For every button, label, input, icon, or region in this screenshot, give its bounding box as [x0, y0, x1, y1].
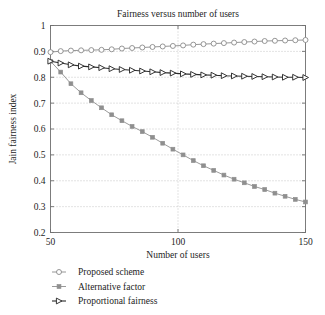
- series-marker-1: [171, 147, 175, 151]
- series-marker-1: [69, 82, 73, 86]
- series-marker-2: [242, 73, 248, 79]
- series-marker-2: [283, 74, 289, 80]
- series-marker-0: [89, 48, 94, 53]
- series-marker-1: [151, 135, 155, 139]
- series-marker-0: [160, 44, 165, 49]
- series-marker-0: [109, 47, 114, 52]
- series-marker-0: [130, 46, 135, 51]
- series-marker-0: [293, 38, 298, 43]
- series-marker-1: [59, 70, 63, 74]
- series-marker-0: [58, 49, 63, 54]
- y-axis-title: Jain fairness index: [8, 93, 18, 164]
- series-marker-0: [283, 38, 288, 43]
- series-marker-2: [160, 70, 166, 76]
- series-marker-1: [100, 106, 104, 110]
- series-marker-1: [232, 177, 236, 181]
- series-marker-1: [161, 141, 165, 145]
- series-marker-2: [109, 66, 115, 72]
- series-marker-1: [191, 159, 195, 163]
- fairness-line-chart: Fairness versus number of users0.20.30.4…: [0, 0, 325, 315]
- series-marker-0: [170, 43, 175, 48]
- legend-label-1: Alternative factor: [78, 282, 146, 292]
- series-marker-1: [293, 197, 297, 201]
- series-marker-1: [273, 191, 277, 195]
- legend-label-2: Proportional fairness: [78, 296, 158, 306]
- series-marker-2: [150, 69, 156, 75]
- series-marker-2: [79, 63, 85, 69]
- series-marker-0: [201, 42, 206, 47]
- legend-marker-2: [56, 298, 62, 304]
- series-marker-2: [170, 70, 176, 76]
- series-marker-1: [253, 185, 257, 189]
- y-tick-label: 0.4: [34, 176, 46, 186]
- series-marker-0: [181, 43, 186, 48]
- y-tick-label: 0.6: [34, 124, 46, 134]
- series-marker-1: [304, 200, 308, 204]
- x-tick-label: 50: [46, 237, 56, 247]
- series-marker-0: [191, 42, 196, 47]
- series-marker-0: [119, 46, 124, 51]
- legend-marker-0: [57, 270, 62, 275]
- series-marker-1: [263, 188, 267, 192]
- series-marker-2: [262, 74, 268, 80]
- series-marker-0: [68, 48, 73, 53]
- series-marker-2: [221, 73, 227, 79]
- series-marker-0: [232, 40, 237, 45]
- series-marker-2: [293, 74, 299, 80]
- series-marker-1: [130, 125, 134, 129]
- series-marker-1: [202, 164, 206, 168]
- series-marker-0: [150, 44, 155, 49]
- series-marker-0: [79, 48, 84, 53]
- y-tick-label: 0.3: [34, 202, 46, 212]
- series-marker-1: [140, 130, 144, 134]
- series-marker-2: [58, 60, 64, 66]
- series-marker-0: [221, 41, 226, 46]
- series-marker-1: [89, 99, 93, 103]
- legend-label-0: Proposed scheme: [78, 267, 144, 277]
- chart-figure: Fairness versus number of users0.20.30.4…: [0, 0, 325, 315]
- y-tick-label: 0.7: [34, 99, 46, 109]
- series-marker-2: [99, 65, 105, 71]
- series-marker-2: [89, 64, 95, 70]
- legend-marker-1: [57, 285, 61, 289]
- y-tick-label: 0.8: [34, 73, 46, 83]
- x-tick-label: 100: [171, 237, 186, 247]
- series-marker-0: [242, 40, 247, 45]
- x-axis-title: Number of users: [146, 250, 210, 260]
- series-marker-1: [181, 153, 185, 157]
- series-marker-1: [79, 91, 83, 95]
- y-tick-label: 0.9: [34, 47, 46, 57]
- series-marker-0: [140, 45, 145, 50]
- y-tick-label: 0.5: [34, 150, 46, 160]
- series-marker-2: [68, 62, 74, 68]
- y-tick-label: 0.2: [34, 228, 46, 238]
- series-marker-2: [119, 67, 125, 73]
- series-marker-1: [222, 173, 226, 177]
- series-marker-2: [272, 74, 278, 80]
- series-marker-0: [48, 50, 53, 55]
- series-marker-1: [242, 181, 246, 185]
- series-marker-0: [211, 41, 216, 46]
- series-marker-1: [120, 119, 124, 123]
- series-marker-0: [252, 39, 257, 44]
- series-marker-1: [110, 113, 114, 117]
- series-marker-2: [232, 73, 238, 79]
- series-marker-2: [130, 67, 136, 73]
- y-tick-label: 1: [41, 21, 46, 31]
- series-marker-1: [283, 194, 287, 198]
- chart-title: Fairness versus number of users: [117, 9, 239, 19]
- series-marker-0: [272, 38, 277, 43]
- series-marker-2: [181, 71, 187, 77]
- x-tick-label: 150: [298, 237, 313, 247]
- series-marker-0: [99, 47, 104, 52]
- series-marker-2: [252, 74, 258, 80]
- series-marker-2: [140, 68, 146, 74]
- series-marker-0: [303, 37, 308, 42]
- series-marker-2: [191, 72, 197, 78]
- series-marker-1: [212, 169, 216, 173]
- series-marker-0: [262, 39, 267, 44]
